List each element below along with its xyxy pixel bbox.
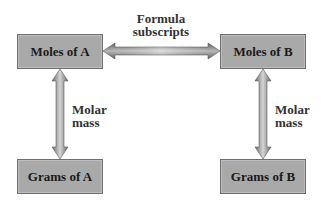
edge-label-line2: subscripts bbox=[121, 25, 201, 38]
molar-mass-label-b: Molar mass bbox=[275, 103, 310, 129]
edge-label-line2: mass bbox=[275, 116, 310, 129]
node-grams-of-a: Grams of A bbox=[17, 159, 103, 194]
formula-subscripts-arrow bbox=[103, 43, 220, 59]
node-label: Moles of A bbox=[30, 44, 89, 60]
edge-label-line2: mass bbox=[72, 116, 107, 129]
formula-subscripts-label: Formula subscripts bbox=[121, 12, 201, 38]
molar-mass-label-a: Molar mass bbox=[72, 103, 107, 129]
node-grams-of-b: Grams of B bbox=[220, 159, 306, 194]
molar-mass-arrow-a bbox=[52, 69, 68, 159]
node-moles-of-a: Moles of A bbox=[17, 34, 103, 69]
node-label: Moles of B bbox=[233, 44, 292, 60]
molar-mass-arrow-b bbox=[255, 69, 271, 159]
node-label: Grams of A bbox=[28, 169, 92, 185]
node-moles-of-b: Moles of B bbox=[220, 34, 306, 69]
node-label: Grams of B bbox=[231, 169, 295, 185]
